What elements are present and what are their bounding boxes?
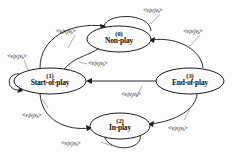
- node-in-play[interactable]: [90, 113, 150, 139]
- edge-nonplay-to-end: [149, 37, 203, 68]
- edge-start-to-inplay: [40, 94, 92, 131]
- edge-end-to-start: [86, 78, 156, 84]
- state-transition-diagram: (0) Non-play (1) Start-of-play (2) In-pl…: [0, 0, 238, 160]
- edge-inplay-to-end: [148, 94, 197, 127]
- node-end-of-play[interactable]: [156, 68, 224, 94]
- node-non-play[interactable]: [87, 26, 151, 52]
- node-start-of-play[interactable]: [14, 68, 86, 94]
- diagram-canvas: [0, 0, 238, 160]
